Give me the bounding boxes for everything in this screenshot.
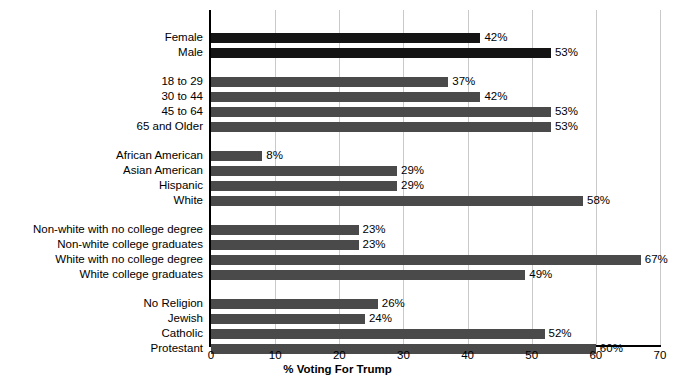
bar-row: White with no college degree67% [0,255,675,266]
gridline [660,10,661,345]
x-tick-label: 40 [448,349,488,362]
bar [211,33,480,43]
bar [211,329,545,339]
y-axis-line [209,10,211,346]
bar-value-label: 29% [401,164,424,177]
x-tick-label: 0 [191,349,231,362]
bar-category-label: 18 to 29 [0,75,203,88]
bar-category-label: Jewish [0,312,203,325]
bar-row: White58% [0,196,675,207]
bar-row: African American8% [0,151,675,162]
bar-row: 65 and Older53% [0,122,675,133]
bar-row: Jewish24% [0,314,675,325]
bar-category-label: Asian American [0,164,203,177]
bar-row: 45 to 6453% [0,107,675,118]
bar-row: Asian American29% [0,166,675,177]
bar [211,270,525,280]
bar-category-label: 65 and Older [0,120,203,133]
x-axis-title: % Voting For Trump [0,363,675,375]
bar-category-label: Non-white with no college degree [0,223,203,236]
x-tick-label: 30 [383,349,423,362]
bar-row: Non-white college graduates23% [0,240,675,251]
bar [211,255,641,265]
bar-row: Catholic52% [0,329,675,340]
gridline [339,10,340,345]
bar [211,48,551,58]
bar [211,240,359,250]
bar [211,77,448,87]
bar [211,122,551,132]
bar-value-label: 8% [266,149,283,162]
x-tick-label: 50 [512,349,552,362]
bar-category-label: Catholic [0,327,203,340]
bar-value-label: 49% [529,268,552,281]
bar-value-label: 24% [369,312,392,325]
bar-value-label: 67% [645,253,668,266]
bar-value-label: 53% [555,120,578,133]
x-tick-label: 20 [319,349,359,362]
bar [211,196,583,206]
bar-value-label: 42% [484,90,507,103]
bar-value-label: 52% [549,327,572,340]
bar-category-label: Female [0,31,203,44]
bar [211,181,397,191]
plot-area [210,10,660,345]
bar-row: No Religion26% [0,299,675,310]
bar-category-label: Hispanic [0,179,203,192]
bar-value-label: 53% [555,105,578,118]
bar [211,151,262,161]
bar [211,225,359,235]
bar-chart: Female42%Male53%18 to 2937%30 to 4442%45… [0,0,675,380]
bar-category-label: White [0,194,203,207]
bar-row: Hispanic29% [0,181,675,192]
gridline [468,10,469,345]
x-tick-label: 70 [640,349,675,362]
bar-value-label: 23% [363,223,386,236]
bar-category-label: White college graduates [0,268,203,281]
bar-category-label: 30 to 44 [0,90,203,103]
bar-value-label: 37% [452,75,475,88]
bar-row: Non-white with no college degree23% [0,225,675,236]
bar-category-label: White with no college degree [0,253,203,266]
bar-row: Male53% [0,48,675,59]
x-tick-label: 60 [576,349,616,362]
bar-row: White college graduates49% [0,270,675,281]
bar-row: 18 to 2937% [0,77,675,88]
bar-value-label: 58% [587,194,610,207]
x-tick-label: 10 [255,349,295,362]
bar-category-label: Male [0,46,203,59]
bar [211,299,378,309]
bar-value-label: 42% [484,31,507,44]
bar-category-label: Protestant [0,342,203,355]
bar-row: Female42% [0,33,675,44]
bar-category-label: African American [0,149,203,162]
bar-row: 30 to 4442% [0,92,675,103]
bar-category-label: No Religion [0,297,203,310]
bar [211,107,551,117]
bar-value-label: 29% [401,179,424,192]
bar-value-label: 53% [555,46,578,59]
gridline [532,10,533,345]
bar-category-label: Non-white college graduates [0,238,203,251]
bar [211,166,397,176]
bar [211,314,365,324]
bar [211,92,480,102]
bar-value-label: 26% [382,297,405,310]
gridline [596,10,597,345]
bar-value-label: 23% [363,238,386,251]
bar-category-label: 45 to 64 [0,105,203,118]
gridline [275,10,276,345]
gridline [403,10,404,345]
